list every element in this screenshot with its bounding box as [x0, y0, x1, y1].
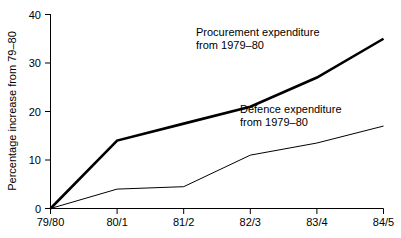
annotation-defence-line2: from 1979–80 — [240, 116, 308, 128]
x-tick-label-1: 80/1 — [106, 216, 127, 228]
x-tick-label-5: 84/5 — [373, 216, 394, 228]
y-tick-label-40: 40 — [29, 9, 41, 21]
y-tick-label-30: 30 — [29, 57, 41, 69]
x-tick-label-2: 81/2 — [173, 216, 194, 228]
line-chart: 40 30 20 10 0 79/80 80/1 81/2 82/3 83/4 … — [0, 0, 401, 238]
x-tick-label-3: 82/3 — [240, 216, 261, 228]
annotation-procurement-line2: from 1979–80 — [196, 39, 264, 51]
y-axis-title: Percentage increase from 79–80 — [6, 31, 18, 191]
y-tick-label-10: 10 — [29, 154, 41, 166]
x-tick-label-0: 79/80 — [37, 216, 65, 228]
chart-container: 40 30 20 10 0 79/80 80/1 81/2 82/3 83/4 … — [0, 0, 401, 238]
annotation-procurement-line1: Procurement expenditure — [196, 26, 320, 38]
y-tick-label-20: 20 — [29, 106, 41, 118]
x-tick-label-4: 83/4 — [306, 216, 327, 228]
y-tick-label-0: 0 — [35, 203, 41, 215]
annotation-defence-line1: Defence expenditure — [240, 103, 342, 115]
